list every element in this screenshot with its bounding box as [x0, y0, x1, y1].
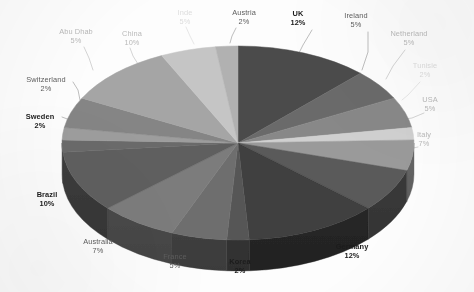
slice-label-value-switzerland: 2%: [4, 85, 88, 94]
pie-chart-figure: UK12%Ireland5%Netherland5%Tunisie2%USA5%…: [0, 0, 474, 292]
leader-line-austria: [230, 28, 236, 43]
slice-label-value-netherland: 5%: [367, 39, 451, 48]
slice-label-value-germany: 12%: [310, 252, 394, 261]
slice-label-italy: Italy7%: [382, 131, 466, 148]
slice-label-value-ireland: 5%: [314, 21, 398, 30]
slice-label-germany: Germany12%: [310, 243, 394, 260]
slice-label-tunisie: Tunisie2%: [383, 62, 467, 79]
slice-label-usa: USA5%: [388, 96, 472, 113]
slice-label-value-tunisie: 2%: [383, 71, 467, 80]
slice-label-value-usa: 5%: [388, 105, 472, 114]
slice-label-austria: Austria2%: [202, 9, 286, 26]
leader-line-abu-dhab: [84, 47, 93, 70]
leader-line-china: [130, 48, 138, 64]
slice-label-value-china: 10%: [90, 39, 174, 48]
slice-label-sweden: Sweden2%: [0, 113, 82, 130]
slice-label-value-italy: 7%: [382, 140, 466, 149]
slice-label-china: China10%: [90, 30, 174, 47]
slice-label-ireland: Ireland5%: [314, 12, 398, 29]
slice-label-australia: Australia7%: [56, 238, 140, 255]
slice-label-value-brazil: 10%: [5, 200, 89, 209]
slice-label-value-australia: 7%: [56, 247, 140, 256]
slice-label-netherland: Netherland5%: [367, 30, 451, 47]
slice-label-value-france: 5%: [133, 262, 217, 271]
slice-label-value-austria: 2%: [202, 18, 286, 27]
slice-label-switzerland: Switzerland2%: [4, 76, 88, 93]
slice-label-value-sweden: 2%: [0, 122, 82, 131]
slice-label-brazil: Brazil10%: [5, 191, 89, 208]
leader-line-inde: [186, 27, 194, 44]
slice-label-france: France5%: [133, 253, 217, 270]
pie-top-surface: [62, 46, 414, 240]
